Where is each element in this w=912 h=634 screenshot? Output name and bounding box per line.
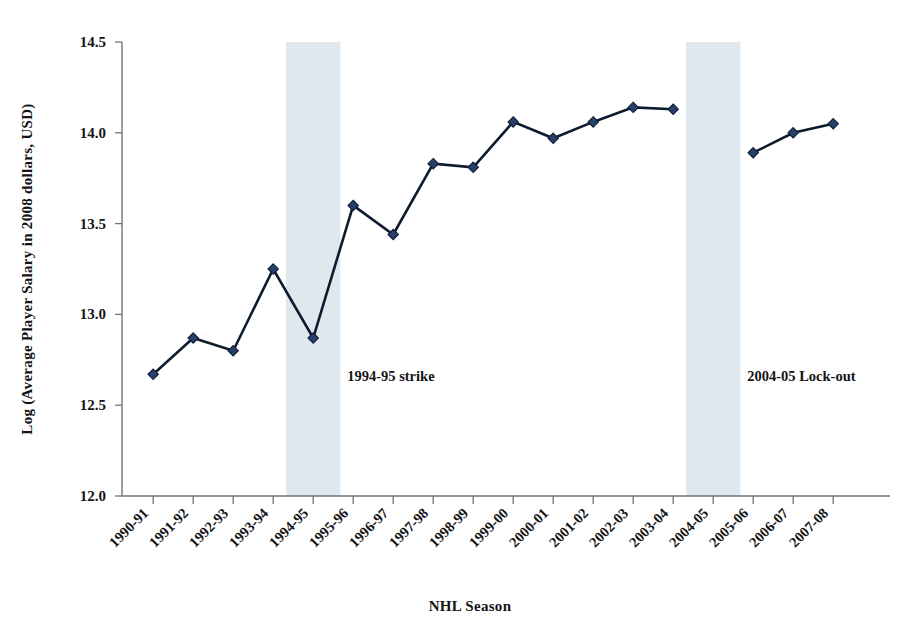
- x-tick-label: 2004-05: [666, 505, 711, 550]
- y-axis-tick-labels: 12.012.513.013.514.014.5: [80, 34, 106, 504]
- x-tick-label: 1995-96: [306, 505, 351, 550]
- x-tick-label: 2007-08: [786, 505, 831, 550]
- data-point-marker: [628, 102, 638, 112]
- strike-annotation-label: 1994-95 strike: [347, 368, 435, 384]
- line-chart-canvas: 12.012.513.013.514.014.5 1990-911991-921…: [0, 0, 912, 634]
- y-tick-label: 13.0: [80, 306, 106, 322]
- x-tick-label: 1998-99: [426, 505, 471, 550]
- y-tick-label: 12.0: [80, 488, 106, 504]
- lockout-band: [686, 42, 740, 496]
- data-point-marker: [828, 119, 838, 129]
- data-point-marker: [588, 117, 598, 127]
- y-tick-label: 12.5: [80, 397, 106, 413]
- x-tick-label: 1991-92: [146, 505, 191, 550]
- x-tick-label: 2001-02: [546, 505, 591, 550]
- x-tick-label: 2003-04: [626, 505, 671, 550]
- x-tick-label: 2006-07: [746, 505, 791, 550]
- x-tick-label: 1992-93: [186, 505, 231, 550]
- x-tick-label: 2002-03: [586, 505, 631, 550]
- data-point-marker: [668, 104, 678, 114]
- data-point-marker: [268, 264, 278, 274]
- y-tick-label: 14.5: [80, 34, 106, 50]
- x-axis-tick-labels: 1990-911991-921992-931993-941994-951995-…: [106, 505, 831, 550]
- series-line-segment-1: [153, 107, 673, 374]
- data-point-marker: [548, 133, 558, 143]
- y-axis-ticks: [115, 42, 122, 496]
- lockout-annotation-label: 2004-05 Lock-out: [747, 368, 856, 384]
- x-axis-title: NHL Season: [429, 598, 512, 614]
- data-point-marker: [788, 128, 798, 138]
- x-tick-label: 1993-94: [226, 505, 271, 550]
- axes: [115, 42, 890, 504]
- x-tick-label: 1990-91: [106, 505, 151, 550]
- x-tick-label: 1999-00: [466, 505, 511, 550]
- data-point-marker: [428, 158, 438, 168]
- x-tick-label: 1996-97: [346, 505, 391, 550]
- data-point-marker: [228, 346, 238, 356]
- x-tick-label: 2000-01: [506, 505, 551, 550]
- y-axis-title: Log (Average Player Salary in 2008 dolla…: [19, 103, 36, 434]
- x-tick-label: 1994-95: [266, 505, 311, 550]
- chart-figure: 12.012.513.013.514.014.5 1990-911991-921…: [0, 0, 912, 634]
- y-tick-label: 13.5: [80, 216, 106, 232]
- x-tick-label: 1997-98: [386, 505, 431, 550]
- x-tick-label: 2005-06: [706, 505, 751, 550]
- data-point-marker: [748, 148, 758, 158]
- x-axis-ticks: [153, 496, 833, 504]
- strike-band: [286, 42, 340, 496]
- y-tick-label: 14.0: [80, 125, 106, 141]
